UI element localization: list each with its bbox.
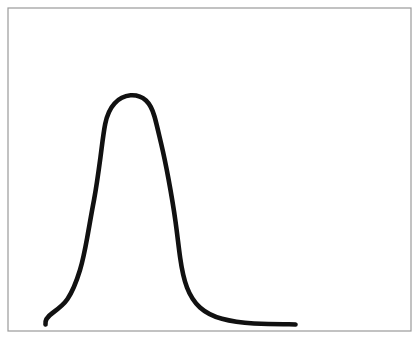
plot-frame-border xyxy=(8,8,411,331)
figure-svg xyxy=(0,0,418,340)
figure-canvas xyxy=(0,0,418,340)
